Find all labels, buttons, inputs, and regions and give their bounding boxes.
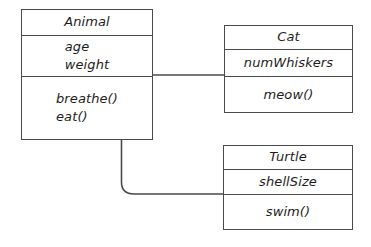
attribute-item: numWhiskers [244, 54, 333, 72]
methods-compartment-turtle: swim() [224, 194, 352, 229]
uml-class-animal[interactable]: Animal age weight breathe() eat() [21, 9, 153, 140]
class-name-compartment-turtle: Turtle [224, 146, 352, 169]
attribute-item: shellSize [259, 173, 317, 191]
method-list-turtle: swim() [266, 203, 310, 221]
methods-compartment-animal: breathe() eat() [22, 76, 152, 139]
uml-class-cat[interactable]: Cat numWhiskers meow() [224, 25, 353, 113]
class-name-compartment-cat: Cat [225, 26, 352, 49]
class-name-cat: Cat [277, 30, 299, 45]
attribute-list-animal: age weight [65, 38, 109, 73]
class-name-compartment-animal: Animal [22, 10, 152, 35]
attribute-item: age [65, 38, 90, 56]
method-item: eat() [56, 108, 88, 126]
method-item: swim() [266, 203, 310, 221]
attributes-compartment-animal: age weight [22, 35, 152, 76]
attribute-item: weight [65, 56, 109, 74]
attribute-list-cat: numWhiskers [244, 54, 333, 72]
method-item: breathe() [56, 90, 118, 108]
attributes-compartment-cat: numWhiskers [225, 49, 352, 76]
methods-compartment-cat: meow() [225, 76, 352, 112]
class-name-animal: Animal [64, 15, 110, 30]
method-list-cat: meow() [264, 86, 314, 104]
method-item: meow() [264, 86, 314, 104]
attributes-compartment-turtle: shellSize [224, 169, 352, 194]
uml-class-diagram: Animal age weight breathe() eat() Cat nu… [0, 0, 371, 247]
attribute-list-turtle: shellSize [259, 173, 317, 191]
uml-class-turtle[interactable]: Turtle shellSize swim() [223, 145, 353, 230]
method-list-animal: breathe() eat() [56, 90, 118, 125]
class-name-turtle: Turtle [269, 150, 307, 165]
